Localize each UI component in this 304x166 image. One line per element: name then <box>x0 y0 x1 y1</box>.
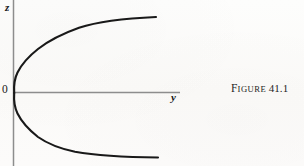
figure-page: z y 0 FIGURE41.1 <box>0 0 304 166</box>
figure-caption: FIGURE41.1 <box>231 82 288 94</box>
caption-lead-letter: F <box>231 82 238 94</box>
y-axis-label: y <box>171 92 176 103</box>
parabola-upper-branch <box>14 17 156 93</box>
origin-label: 0 <box>2 84 8 96</box>
z-axis-label: z <box>5 2 9 13</box>
caption-number: 41.1 <box>269 82 289 94</box>
caption-smallcaps-text: IGURE <box>238 84 267 94</box>
parabola-lower-branch <box>14 93 158 158</box>
